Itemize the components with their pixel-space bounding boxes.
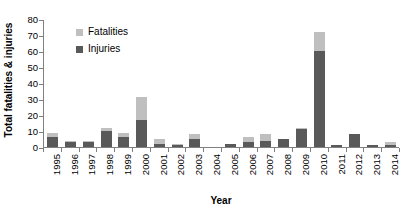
y-axis-tick-label: 50 bbox=[27, 63, 38, 73]
bar-group bbox=[331, 20, 342, 147]
bar-segment-injuries bbox=[314, 51, 325, 147]
bar-group bbox=[349, 20, 360, 147]
x-axis-tick-label: 2006 bbox=[242, 152, 253, 192]
x-axis-tick-label: 2011 bbox=[331, 152, 342, 192]
x-axis-tick-label-text: 2006 bbox=[248, 154, 258, 175]
bar-segment-injuries bbox=[83, 142, 94, 147]
x-axis-tick-label-text: 2003 bbox=[194, 154, 204, 175]
x-axis-tick-label-text: 2013 bbox=[372, 154, 382, 175]
y-axis-tick-label: 40 bbox=[27, 79, 38, 89]
bar-group bbox=[314, 20, 325, 147]
bar-segment-injuries bbox=[101, 131, 112, 147]
bar-group bbox=[385, 20, 396, 147]
y-axis-tick-mark bbox=[39, 68, 43, 69]
bar-group bbox=[172, 20, 183, 147]
legend-label: Injuries bbox=[88, 44, 120, 54]
y-axis-tick-label: 0 bbox=[33, 143, 38, 153]
y-axis-tick-mark bbox=[39, 116, 43, 117]
bar-group bbox=[243, 20, 254, 147]
y-axis-tick-label: 10 bbox=[27, 127, 38, 137]
bar-group bbox=[65, 20, 76, 147]
x-axis-title: Year bbox=[43, 196, 399, 206]
bar-group bbox=[47, 20, 58, 147]
bar-segment-injuries bbox=[278, 139, 289, 147]
y-axis-tick-label: 20 bbox=[27, 111, 38, 121]
x-axis-tick-label: 1996 bbox=[64, 152, 75, 192]
y-axis-tick-mark bbox=[39, 36, 43, 37]
bar-segment-injuries bbox=[136, 120, 147, 147]
bar-segment-injuries bbox=[243, 142, 254, 147]
bar-segment-injuries bbox=[296, 129, 307, 147]
bar-segment-injuries bbox=[118, 137, 129, 147]
x-axis-tick-label: 1995 bbox=[46, 152, 57, 192]
x-axis-tick-label-text: 2004 bbox=[212, 154, 222, 175]
x-axis-tick-label-text: 2005 bbox=[230, 154, 240, 175]
x-axis-tick-label-text: 1997 bbox=[87, 154, 97, 175]
bar-segment-fatalities bbox=[314, 32, 325, 51]
bar-segment-injuries bbox=[260, 141, 271, 147]
x-axis-tick-label-text: 1998 bbox=[105, 154, 115, 175]
bar-segment-injuries bbox=[331, 145, 342, 147]
bar-segment-injuries bbox=[385, 145, 396, 147]
x-axis-tick-label: 1999 bbox=[118, 152, 129, 192]
y-axis-tick-mark bbox=[39, 20, 43, 21]
bar-group bbox=[296, 20, 307, 147]
y-axis-title-label: Total fatalities & injuries bbox=[4, 23, 14, 138]
x-axis-tick-label: 2009 bbox=[296, 152, 307, 192]
x-axis-tick-labels: 1995199619971998199920002001200220032004… bbox=[43, 152, 399, 192]
x-axis-tick-label: 1998 bbox=[100, 152, 111, 192]
bar-segment-injuries bbox=[65, 142, 76, 147]
x-axis-tick-label: 2002 bbox=[171, 152, 182, 192]
y-axis-tick-label: 60 bbox=[27, 47, 38, 57]
x-axis-tick-label-text: 2010 bbox=[319, 154, 329, 175]
bar-chart: Total fatalities & injuries 010203040506… bbox=[0, 0, 405, 216]
x-axis-tick-label: 2001 bbox=[153, 152, 164, 192]
x-axis-tick-label: 2000 bbox=[135, 152, 146, 192]
x-axis-tick-label-text: 2009 bbox=[301, 154, 311, 175]
x-axis-tick-label: 2004 bbox=[207, 152, 218, 192]
chart-legend: FatalitiesInjuries bbox=[76, 27, 128, 54]
legend-entry: Fatalities bbox=[76, 27, 128, 37]
x-axis-tick-label: 2007 bbox=[260, 152, 271, 192]
x-axis-tick-label-text: 1996 bbox=[70, 154, 80, 175]
bar-group bbox=[154, 20, 165, 147]
x-axis-tick-label-text: 1999 bbox=[123, 154, 133, 175]
y-axis-tick-label: 30 bbox=[27, 95, 38, 105]
x-axis-tick-label: 2005 bbox=[224, 152, 235, 192]
x-axis-tick-label-text: 2001 bbox=[159, 154, 169, 175]
y-axis-tick-label: 70 bbox=[27, 31, 38, 41]
bar-group bbox=[189, 20, 200, 147]
x-axis-tick-label: 2008 bbox=[278, 152, 289, 192]
y-axis-tick-mark bbox=[39, 52, 43, 53]
bar-segment-injuries bbox=[154, 144, 165, 147]
bar-group bbox=[260, 20, 271, 147]
x-axis-tick-label: 2014 bbox=[385, 152, 396, 192]
bar-group bbox=[278, 20, 289, 147]
bar-segment-injuries bbox=[225, 144, 236, 147]
bar-segment-injuries bbox=[349, 134, 360, 147]
bar-group bbox=[367, 20, 378, 147]
x-axis-tick-label-text: 2000 bbox=[141, 154, 151, 175]
x-axis-tick-label-text: 1995 bbox=[52, 154, 62, 175]
x-axis-tick-label-text: 2007 bbox=[265, 154, 275, 175]
x-axis-tick-label-text: 2011 bbox=[337, 154, 347, 174]
legend-entry: Injuries bbox=[76, 44, 128, 54]
y-axis-tick-mark bbox=[39, 132, 43, 133]
y-axis-tick-mark bbox=[39, 100, 43, 101]
x-axis-tick-label: 2003 bbox=[189, 152, 200, 192]
bar-segment-injuries bbox=[367, 145, 378, 147]
y-axis-tick-label: 80 bbox=[27, 15, 38, 25]
x-axis-tick-label: 2012 bbox=[349, 152, 360, 192]
x-axis-title-label: Year bbox=[210, 195, 231, 206]
bar-segment-injuries bbox=[47, 137, 58, 147]
legend-swatch-icon bbox=[76, 29, 83, 36]
x-axis-tick-label: 2013 bbox=[367, 152, 378, 192]
bar-group bbox=[225, 20, 236, 147]
y-axis-tick-labels: 01020304050607080 bbox=[17, 14, 40, 154]
x-axis-tick-label: 1997 bbox=[82, 152, 93, 192]
x-axis-tick-label-text: 2014 bbox=[390, 154, 400, 175]
bar-group bbox=[136, 20, 147, 147]
bar-segment-fatalities bbox=[136, 97, 147, 119]
x-axis-tick-label-text: 2008 bbox=[283, 154, 293, 175]
x-axis-tick-mark bbox=[399, 148, 400, 152]
